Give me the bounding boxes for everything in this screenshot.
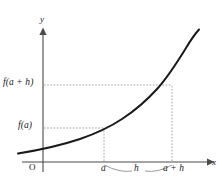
value-label-f-a: f(a) (18, 121, 32, 131)
plot-canvas (0, 0, 222, 187)
tick-label-a-plus-h: a + h (163, 164, 184, 174)
tick-label-a: a (101, 164, 106, 174)
x-axis (22, 158, 215, 165)
y-axis-label: y (40, 15, 44, 24)
value-label-f-a-plus-h: f(a + h) (3, 78, 33, 88)
interval-label-h: h (134, 164, 139, 174)
x-axis-label: x (212, 158, 216, 167)
graph-figure: y x O f(a + h) f(a) a a + h h (0, 0, 222, 187)
origin-label: O (29, 163, 36, 172)
